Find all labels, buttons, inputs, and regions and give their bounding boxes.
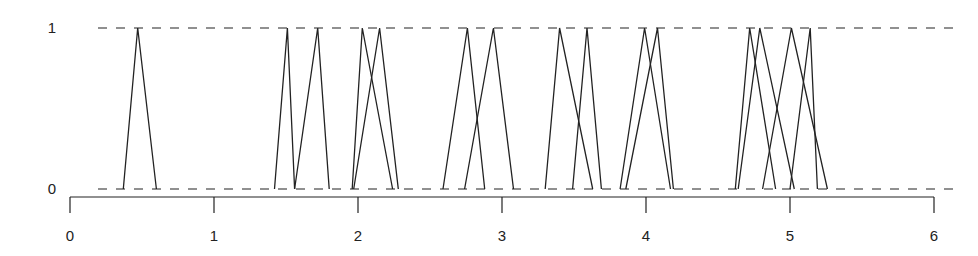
y-tick-label: 0 xyxy=(48,180,56,197)
membership-function-chart: 0123456 01 xyxy=(0,0,978,256)
triangular-series xyxy=(123,28,827,189)
series-t2 xyxy=(275,28,295,189)
x-tick-label: 3 xyxy=(498,227,506,244)
series-t4 xyxy=(352,28,392,189)
series-t10 xyxy=(620,28,670,189)
series-t15 xyxy=(790,28,817,189)
x-tick-label: 0 xyxy=(66,227,74,244)
series-t7 xyxy=(465,28,514,189)
x-tick-label: 5 xyxy=(786,227,794,244)
reference-lines xyxy=(98,28,962,189)
y-axis-labels: 01 xyxy=(48,19,56,197)
x-tick-label: 2 xyxy=(354,227,362,244)
series-t1 xyxy=(123,28,156,189)
series-t13 xyxy=(738,28,794,189)
series-t8 xyxy=(545,28,593,189)
x-axis: 0123456 xyxy=(66,197,938,244)
y-tick-label: 1 xyxy=(48,19,56,36)
x-tick-label: 6 xyxy=(930,227,938,244)
x-tick-label: 1 xyxy=(210,227,218,244)
series-t3 xyxy=(295,28,330,189)
series-t9 xyxy=(573,28,602,189)
x-tick-label: 4 xyxy=(642,227,650,244)
